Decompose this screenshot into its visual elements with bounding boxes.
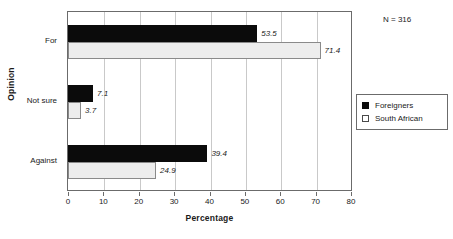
y-axis-category-labels: ForNot sureAgainst	[0, 11, 63, 191]
bar-value-label: 24.9	[160, 166, 176, 175]
bar-value-label: 3.7	[85, 106, 96, 115]
x-tick	[139, 192, 140, 196]
y-axis-label-against: Against	[30, 156, 57, 165]
legend-label: Foreigners	[375, 101, 413, 110]
x-tick	[316, 192, 317, 196]
y-axis-label-for: For	[45, 36, 57, 45]
legend-swatch-icon	[362, 102, 369, 109]
bar-value-label: 71.4	[325, 46, 341, 55]
x-tick	[210, 192, 211, 196]
bar-value-label: 53.5	[261, 29, 277, 38]
legend-item-foreigners[interactable]: Foreigners	[362, 99, 442, 112]
x-tick	[351, 192, 352, 196]
x-tick-label: 30	[162, 197, 186, 206]
x-tick-label: 10	[91, 197, 115, 206]
sample-size-annotation: N = 316	[383, 15, 411, 24]
x-tick	[68, 192, 69, 196]
x-tick-label: 80	[339, 197, 363, 206]
x-axis-title: Percentage	[67, 213, 352, 223]
bar-not-sure-foreigners	[68, 85, 93, 102]
x-tick-label: 60	[268, 197, 292, 206]
x-tick-label: 70	[304, 197, 328, 206]
bar-for-south-african	[68, 42, 321, 59]
gridline	[317, 12, 318, 190]
x-tick	[103, 192, 104, 196]
bar-for-foreigners	[68, 25, 257, 42]
legend-item-south-african[interactable]: South African	[362, 112, 442, 125]
x-tick	[174, 192, 175, 196]
plot-area: 53.571.47.13.739.424.9	[67, 11, 352, 191]
x-tick-label: 0	[56, 197, 80, 206]
x-tick	[245, 192, 246, 196]
chart-container: Opinion ForNot sureAgainst 53.571.47.13.…	[0, 0, 453, 239]
gridline	[281, 12, 282, 190]
chart-legend: ForeignersSouth African	[356, 94, 448, 130]
x-tick-label: 40	[198, 197, 222, 206]
legend-swatch-icon	[362, 115, 369, 122]
bar-value-label: 39.4	[211, 149, 227, 158]
bar-against-foreigners	[68, 145, 207, 162]
x-tick	[280, 192, 281, 196]
x-tick-label: 50	[233, 197, 257, 206]
x-tick-label: 20	[127, 197, 151, 206]
bar-value-label: 7.1	[97, 89, 108, 98]
legend-label: South African	[375, 114, 423, 123]
y-axis-label-not-sure: Not sure	[27, 96, 57, 105]
bar-against-south-african	[68, 162, 156, 179]
bar-not-sure-south-african	[68, 102, 81, 119]
